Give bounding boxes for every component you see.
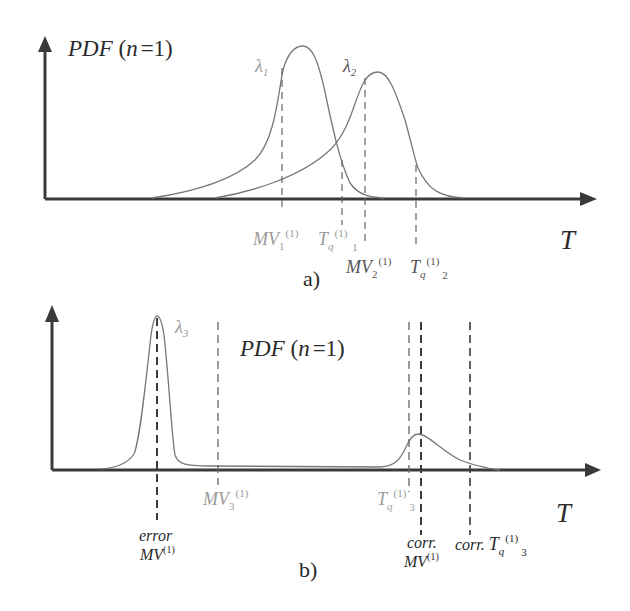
panel-b: PDF (n=1) λ3 error MV(1) MV3(1) Tq(1)3 c…	[45, 305, 601, 582]
label-corr-mv-1: corr.	[407, 534, 437, 551]
ylabel-pdf: PDF	[67, 36, 114, 61]
y-axis-label-a: PDF (n=1)	[67, 36, 173, 61]
label-mv3: MV3(1)	[202, 487, 249, 512]
x-axis-label-a: T	[560, 225, 577, 255]
x-axis-arrow-icon	[585, 463, 601, 477]
label-corr-tq3: corr.Tq(1)3	[455, 532, 527, 558]
x-axis-arrow-icon	[580, 192, 597, 206]
figure: PDF (n=1) λ1 λ2 MV1(1) Tq(1)1 MV2(1) Tq(…	[0, 0, 630, 611]
curve-lambda2	[215, 72, 465, 198]
caption-b: b)	[299, 557, 317, 582]
y-axis-arrow-icon	[45, 305, 59, 322]
caption-a: a)	[303, 266, 320, 291]
label-lambda2: λ2	[342, 56, 357, 78]
label-corr-mv-2: MV(1)	[403, 551, 439, 570]
label-error-mv-2: MV(1)	[139, 544, 175, 563]
y-axis-label-b: PDF (n=1)	[239, 336, 345, 361]
label-tq3: Tq(1)3	[377, 487, 415, 513]
label-mv2: MV2(1)	[345, 255, 392, 280]
label-error-mv-1: error	[139, 527, 173, 544]
y-axis-arrow-icon	[38, 36, 52, 52]
ylabel-eq: =1)	[141, 36, 173, 61]
label-tq2: Tq(1)2	[410, 255, 448, 281]
label-lambda1: λ1	[254, 56, 268, 78]
label-tq1: Tq(1)1	[318, 227, 358, 253]
x-axis-label-b: T	[556, 498, 573, 528]
ylabel-n: n	[126, 36, 138, 61]
panel-a: PDF (n=1) λ1 λ2 MV1(1) Tq(1)1 MV2(1) Tq(…	[38, 36, 597, 291]
label-mv1: MV1(1)	[252, 227, 299, 252]
label-lambda3: λ3	[174, 317, 189, 339]
